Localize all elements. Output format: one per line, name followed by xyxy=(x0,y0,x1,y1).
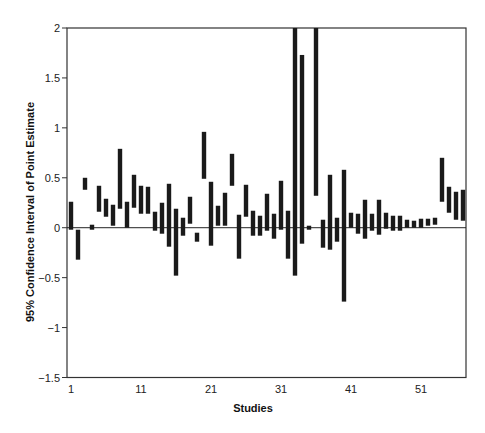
ci-bar-study-17 xyxy=(181,218,185,236)
ci-bar-study-56 xyxy=(454,192,458,220)
ci-bar-study-50 xyxy=(412,221,416,228)
ci-bar-study-42 xyxy=(356,214,360,234)
ci-bar-study-8 xyxy=(118,149,122,209)
ci-bar-study-37 xyxy=(321,220,325,248)
ci-bar-study-40 xyxy=(342,170,346,302)
ci-bar-study-13 xyxy=(153,212,157,231)
ci-bar-study-6 xyxy=(104,199,108,217)
ci-bar-study-31 xyxy=(279,181,283,230)
ci-bar-study-53 xyxy=(433,218,437,225)
ci-bar-study-34 xyxy=(300,55,304,244)
ci-bar-study-51 xyxy=(419,219,423,228)
ci-bar-study-33 xyxy=(293,28,297,276)
y-tick-label: 1.5 xyxy=(45,72,60,84)
ci-bar-study-47 xyxy=(391,216,395,231)
ci-bar-study-12 xyxy=(146,187,150,214)
ci-bar-study-18 xyxy=(188,197,192,224)
x-tick-label: 1 xyxy=(68,383,74,395)
ci-bar-study-29 xyxy=(265,194,269,231)
ci-bar-study-48 xyxy=(398,216,402,231)
ci-bar-study-57 xyxy=(461,190,465,221)
ci-bar-study-39 xyxy=(335,218,339,242)
ci-bar-study-30 xyxy=(272,214,276,239)
ci-bar-study-5 xyxy=(97,186,101,212)
ci-bar-study-24 xyxy=(230,154,234,186)
ci-bar-study-41 xyxy=(349,213,353,228)
ci-bar-study-52 xyxy=(426,219,430,226)
ci-bar-study-36 xyxy=(314,28,318,196)
x-axis-ticks: 11121314151 xyxy=(68,383,427,395)
ci-bar-study-21 xyxy=(209,182,213,246)
x-tick-label: 11 xyxy=(135,383,146,395)
ci-bar-study-46 xyxy=(384,213,388,229)
ci-bar-study-4 xyxy=(90,225,94,230)
ci-bar-study-35 xyxy=(307,226,311,230)
ci-bar-study-7 xyxy=(111,205,115,226)
y-axis-ticks: 21.510.50−0.5−1−1.5 xyxy=(38,22,67,384)
x-tick-label: 51 xyxy=(415,383,427,395)
ci-bar-study-3 xyxy=(83,178,87,190)
ci-bar-study-11 xyxy=(139,186,143,214)
ci-bar-study-54 xyxy=(440,158,444,202)
ci-bar-study-15 xyxy=(167,184,171,247)
ci-bar-study-45 xyxy=(377,200,381,235)
ci-bars xyxy=(69,28,465,302)
ci-bar-study-14 xyxy=(160,203,164,234)
y-axis-title: 95% Confidence Interval of Point Estimat… xyxy=(24,102,36,322)
ci-bar-study-49 xyxy=(405,220,409,228)
ci-bar-study-2 xyxy=(76,230,80,260)
ci-bar-study-22 xyxy=(216,206,220,226)
ci-bar-study-16 xyxy=(174,209,178,276)
y-tick-label: 0.5 xyxy=(45,172,60,184)
x-axis-title: Studies xyxy=(233,402,273,414)
ci-bar-study-9 xyxy=(125,202,129,228)
x-tick-label: 41 xyxy=(345,383,357,395)
x-tick-label: 31 xyxy=(275,383,287,395)
ci-bar-study-20 xyxy=(202,132,206,179)
y-tick-label: 0 xyxy=(54,222,60,234)
ci-bar-study-28 xyxy=(258,216,262,236)
y-tick-label: −1.5 xyxy=(38,372,60,384)
y-tick-label: −0.5 xyxy=(38,272,60,284)
ci-bar-study-19 xyxy=(195,233,199,242)
y-tick-label: 2 xyxy=(54,22,60,34)
ci-bar-study-55 xyxy=(447,187,451,213)
ci-bar-study-32 xyxy=(286,211,290,259)
ci-bar-study-43 xyxy=(363,200,367,239)
ci-bar-study-10 xyxy=(132,175,136,208)
ci-bar-study-1 xyxy=(69,202,73,230)
y-tick-label: −1 xyxy=(47,322,60,334)
ci-bar-study-44 xyxy=(370,214,374,231)
x-tick-label: 21 xyxy=(205,383,217,395)
y-tick-label: 1 xyxy=(54,122,60,134)
confidence-interval-chart: 21.510.50−0.5−1−1.5 11121314151 Studies … xyxy=(0,0,485,433)
ci-bar-study-23 xyxy=(223,193,227,226)
ci-bar-study-38 xyxy=(328,175,332,250)
ci-bar-study-25 xyxy=(237,215,241,259)
ci-bar-study-26 xyxy=(244,185,248,217)
ci-bar-study-27 xyxy=(251,211,255,236)
